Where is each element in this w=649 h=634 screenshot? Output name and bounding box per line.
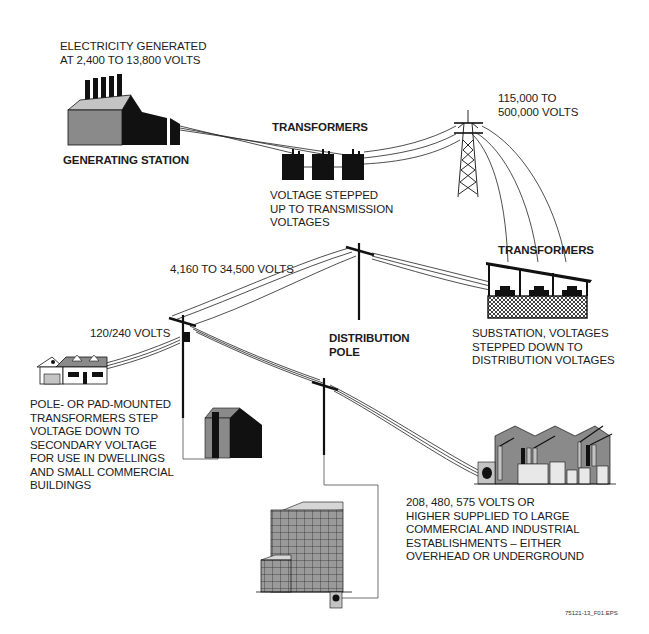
pole-transformer-note: POLE- OR PAD-MOUNTED TRANSFORMERS STEP V…: [30, 398, 174, 493]
industrial-voltage-note: 208, 480, 575 VOLTS OR HIGHER SUPPLIED T…: [406, 496, 584, 564]
distribution-pole-icon: [346, 243, 374, 320]
distribution-voltage-label: 4,160 TO 34,500 VOLTS: [170, 263, 294, 277]
figure-id: 75121-13_F01.EPS: [565, 610, 618, 616]
generating-station-title: GENERATING STATION: [63, 154, 189, 168]
tower-to-substation-lines: [470, 126, 566, 262]
office-building-icon: [256, 502, 352, 608]
generation-voltage-label: ELECTRICITY GENERATED AT 2,400 TO 13,800…: [60, 40, 206, 67]
secondary-distribution-lines: [190, 326, 326, 386]
step-up-transformers-icon: [282, 149, 364, 180]
small-commercial-building-icon: [205, 408, 262, 458]
residential-voltage-label: 120/240 VOLTS: [90, 327, 170, 341]
service-drop-lines: [106, 337, 180, 369]
distribution-pole-title: DISTRIBUTION POLE: [329, 332, 410, 359]
generating-station-icon: [68, 74, 180, 145]
substation-transformers-title: TRANSFORMERS: [498, 244, 594, 258]
substation-icon: [486, 262, 592, 318]
substation-note: SUBSTATION, VOLTAGES STEPPED DOWN TO DIS…: [472, 327, 615, 368]
substation-to-pole-lines: [372, 253, 490, 290]
house-icon: [37, 355, 107, 384]
step-up-transformers-title: TRANSFORMERS: [272, 121, 368, 135]
distribution-lines: [172, 248, 356, 326]
industrial-complex-icon: [474, 426, 616, 484]
transmission-tower-icon: [454, 110, 483, 197]
step-up-note: VOLTAGE STEPPED UP TO TRANSMISSION VOLTA…: [270, 189, 393, 230]
transmission-lines: [364, 126, 460, 164]
transmission-voltage-label: 115,000 TO 500,000 VOLTS: [498, 92, 578, 119]
industrial-feed-lines: [330, 385, 478, 476]
